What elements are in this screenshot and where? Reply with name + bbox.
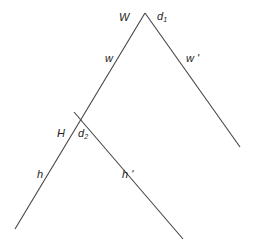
edge-label-h-prime: h ' xyxy=(122,168,134,180)
node-label-w: W xyxy=(119,11,131,23)
edge-w-h xyxy=(15,13,145,229)
game-tree-diagram: W d1 w w ' H d2 h h ' xyxy=(0,0,253,249)
decision-label-d2: d2 xyxy=(78,127,88,140)
edge-label-w: w xyxy=(105,52,114,64)
edge-label-h: h xyxy=(37,168,43,180)
decision-label-d1: d1 xyxy=(157,10,167,23)
node-label-h: H xyxy=(57,127,65,139)
edge-label-w-prime: w ' xyxy=(186,52,200,64)
edge-w-prime xyxy=(145,13,240,147)
